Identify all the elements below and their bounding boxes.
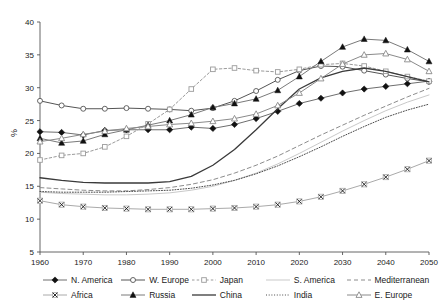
data-point-marker <box>52 276 58 282</box>
legend-row: N. AmericaW. EuropeJapanS. AmericaMedite… <box>22 272 438 287</box>
data-point-marker <box>52 292 57 297</box>
legend-label: W. Europe <box>149 275 189 285</box>
data-point-marker <box>275 77 280 82</box>
data-point-marker <box>189 207 194 212</box>
legend-marker-icon <box>346 274 372 286</box>
data-point-marker <box>296 73 302 79</box>
data-point-marker <box>59 153 64 158</box>
data-point-marker <box>275 202 280 207</box>
data-point-marker <box>38 158 43 163</box>
data-point-marker <box>361 36 367 42</box>
legend-item-china[interactable]: China <box>191 289 265 301</box>
x-tick-label: 2050 <box>420 258 438 267</box>
y-tick-label: 10 <box>25 215 34 224</box>
data-point-marker <box>254 89 259 94</box>
x-tick-label: 2030 <box>334 258 352 267</box>
x-tick-label: 2020 <box>290 258 308 267</box>
legend-marker-icon <box>346 289 372 301</box>
data-point-marker <box>318 75 324 81</box>
legend-marker-icon <box>42 289 68 301</box>
data-point-marker <box>361 86 367 92</box>
line-chart-plot: 5101520253035401960197019801990200020102… <box>0 0 443 306</box>
y-tick-label: 20 <box>25 149 34 158</box>
y-tick-label: 35 <box>25 51 34 60</box>
data-point-marker <box>37 129 43 135</box>
data-point-marker <box>211 67 216 72</box>
legend-marker-icon <box>42 274 68 286</box>
series-line <box>40 161 429 210</box>
x-tick-label: 2010 <box>247 258 265 267</box>
y-tick-label: 5 <box>30 248 35 257</box>
data-point-marker <box>167 107 172 112</box>
series-africa <box>37 158 431 212</box>
data-point-marker <box>297 199 302 204</box>
legend-item-mediterranean[interactable]: Mediterranean <box>346 274 438 286</box>
legend-marker-icon <box>265 289 291 301</box>
data-point-marker <box>232 66 237 71</box>
data-point-marker <box>189 87 194 92</box>
legend-label: S. America <box>294 275 335 285</box>
series-s-america <box>40 95 429 195</box>
legend-item-w-europe[interactable]: W. Europe <box>120 274 191 286</box>
data-point-marker <box>297 67 302 72</box>
x-tick-label: 1960 <box>31 258 49 267</box>
legend-item-e-europe[interactable]: E. Europe <box>346 289 438 301</box>
data-point-marker <box>383 174 388 179</box>
data-point-marker <box>296 100 302 106</box>
legend-label: China <box>220 290 242 300</box>
data-point-marker <box>146 106 151 111</box>
data-point-marker <box>231 121 237 127</box>
legend-label: Mediterranean <box>375 275 430 285</box>
data-point-marker <box>81 151 86 156</box>
legend-marker-icon <box>191 289 217 301</box>
data-point-marker <box>167 127 173 133</box>
data-point-marker <box>318 194 323 199</box>
legend-label: Africa <box>71 290 93 300</box>
legend-row: AfricaRussiaChinaIndiaE. Europe <box>22 287 438 302</box>
legend-label: Japan <box>220 275 243 285</box>
y-axis-title: % <box>9 121 19 145</box>
data-point-marker <box>167 207 172 212</box>
data-point-marker <box>81 204 86 209</box>
data-point-marker <box>102 106 107 111</box>
chart-legend: N. AmericaW. EuropeJapanS. AmericaMedite… <box>22 272 438 304</box>
series-russia <box>37 36 432 145</box>
data-point-marker <box>318 58 324 64</box>
x-tick-label: 1990 <box>161 258 179 267</box>
data-point-marker <box>254 204 259 209</box>
data-point-marker <box>37 198 42 203</box>
data-point-marker <box>210 125 216 131</box>
data-point-marker <box>145 207 150 212</box>
data-point-marker <box>362 182 367 187</box>
data-point-marker <box>38 98 43 103</box>
data-point-marker <box>383 83 389 89</box>
data-point-marker <box>426 68 432 74</box>
legend-item-s-america[interactable]: S. America <box>265 274 346 286</box>
legend-item-africa[interactable]: Africa <box>22 289 120 301</box>
data-point-marker <box>81 106 86 111</box>
legend-marker-icon <box>120 289 146 301</box>
y-tick-label: 30 <box>25 84 34 93</box>
x-tick-label: 2000 <box>204 258 222 267</box>
series-n-america <box>37 78 432 138</box>
legend-item-japan[interactable]: Japan <box>191 274 265 286</box>
legend-marker-icon <box>265 274 291 286</box>
y-tick-label: 25 <box>25 117 34 126</box>
data-point-marker <box>275 70 280 75</box>
data-point-marker <box>103 145 108 150</box>
x-tick-label: 1970 <box>74 258 92 267</box>
data-point-marker <box>124 134 129 139</box>
series-line <box>40 95 429 195</box>
data-point-marker <box>340 188 345 193</box>
legend-label: N. America <box>71 275 113 285</box>
series-line <box>40 63 429 160</box>
chart-axes <box>40 22 429 252</box>
data-point-marker <box>275 87 281 93</box>
data-point-marker <box>124 206 129 211</box>
legend-item-russia[interactable]: Russia <box>120 289 191 301</box>
legend-item-n-america[interactable]: N. America <box>22 274 120 286</box>
y-tick-label: 40 <box>25 18 34 27</box>
data-point-marker <box>131 277 136 282</box>
legend-item-india[interactable]: India <box>265 289 346 301</box>
x-tick-label: 1980 <box>118 258 136 267</box>
